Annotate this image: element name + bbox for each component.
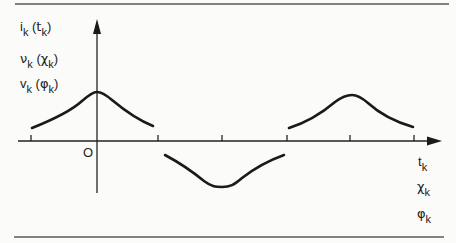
- x-ticks: [31, 135, 414, 141]
- positive-pulse-2: [289, 95, 413, 128]
- x-label-phi: φk: [417, 207, 431, 225]
- x-label-t: tk: [418, 155, 427, 173]
- x-label-chi-main: χ: [417, 179, 425, 194]
- waveform-plot: [0, 0, 456, 243]
- y-label-current-sub: k: [23, 26, 29, 38]
- x-label-chi-sub: k: [425, 186, 431, 198]
- waveform-figure: ik (tk) νk (χk) vk (φk) O tk χk φk: [0, 0, 456, 243]
- x-label-phi-sub: k: [426, 213, 432, 225]
- y-label-voltage-arg: φ: [40, 76, 49, 91]
- x-label-phi-main: φ: [417, 206, 426, 221]
- y-label-nu-sub: k: [27, 58, 33, 70]
- positive-pulse-1: [32, 92, 153, 128]
- negative-pulse: [165, 155, 284, 187]
- y-label-voltage: vk (φk): [20, 77, 58, 95]
- x-label-t-sub: k: [422, 161, 428, 173]
- y-label-nu-arg-sub: k: [48, 58, 54, 70]
- x-axis-arrow-icon: [427, 137, 442, 146]
- x-label-chi: χk: [417, 180, 430, 198]
- origin-label: O: [83, 145, 93, 160]
- y-label-voltage-sub: k: [27, 83, 33, 95]
- y-axis-arrow-icon: [93, 19, 101, 34]
- y-label-current: ik (tk): [20, 20, 51, 38]
- y-label-current-arg-sub: k: [41, 26, 47, 38]
- y-label-nu: νk (χk): [20, 52, 58, 70]
- y-label-voltage-arg-sub: k: [49, 83, 55, 95]
